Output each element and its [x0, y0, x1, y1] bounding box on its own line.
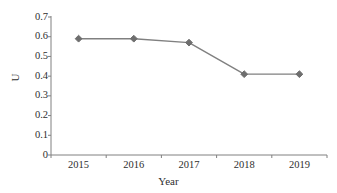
- x-axis-tick-labels: 20152016201720182019: [52, 159, 327, 175]
- x-axis-tick-label: 2018: [234, 159, 255, 171]
- x-axis-tick-label: 2019: [289, 159, 310, 171]
- data-point-marker: [241, 71, 248, 78]
- data-point-marker: [186, 39, 193, 46]
- data-point-marker: [130, 35, 137, 42]
- x-axis-tick-label: 2016: [123, 159, 144, 171]
- line-chart: U 0.70.60.50.40.30.20.10 201520162017201…: [0, 0, 337, 193]
- x-axis-tick-label: 2017: [179, 159, 200, 171]
- x-axis-tick-label: 2015: [68, 159, 89, 171]
- data-point-marker: [75, 35, 82, 42]
- data-point-marker: [296, 71, 303, 78]
- x-axis-title: Year: [0, 175, 337, 187]
